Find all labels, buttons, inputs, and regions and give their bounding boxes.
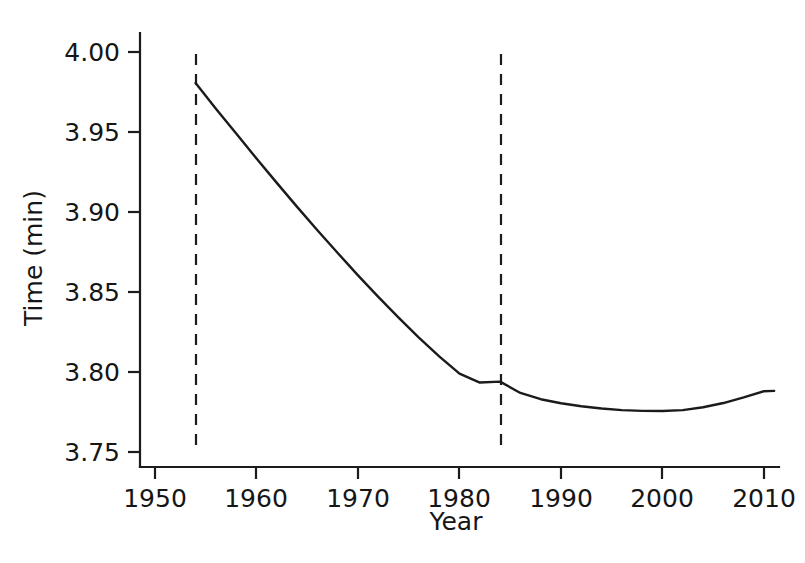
x-axis-ticks bbox=[155, 467, 764, 479]
x-tick-label: 2010 bbox=[732, 484, 796, 513]
y-tick-label: 3.95 bbox=[64, 118, 120, 147]
chart-canvas: 4.00 3.95 3.90 3.85 3.80 3.75 1950 1960 … bbox=[0, 0, 805, 563]
y-tick-label: 3.75 bbox=[64, 438, 120, 467]
y-axis-tick-labels: 4.00 3.95 3.90 3.85 3.80 3.75 bbox=[64, 38, 120, 467]
x-tick-label: 1960 bbox=[224, 484, 288, 513]
chart-figure: 4.00 3.95 3.90 3.85 3.80 3.75 1950 1960 … bbox=[0, 0, 805, 563]
x-axis-title: Year bbox=[429, 507, 484, 536]
y-axis-title: Time (min) bbox=[19, 190, 48, 327]
y-tick-label: 4.00 bbox=[64, 38, 120, 67]
y-tick-label: 3.80 bbox=[64, 358, 120, 387]
x-tick-label: 1950 bbox=[123, 484, 187, 513]
y-axis-ticks bbox=[128, 52, 140, 452]
x-tick-label: 1970 bbox=[326, 484, 390, 513]
x-tick-label: 2000 bbox=[630, 484, 694, 513]
data-series-line bbox=[196, 83, 775, 411]
x-tick-label: 1990 bbox=[529, 484, 593, 513]
y-tick-label: 3.85 bbox=[64, 278, 120, 307]
y-tick-label: 3.90 bbox=[64, 198, 120, 227]
